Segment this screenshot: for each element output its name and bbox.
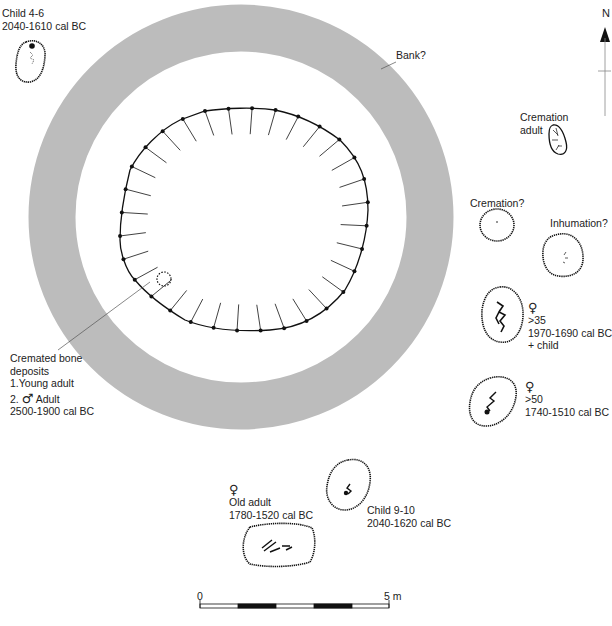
grave-female-35 <box>482 287 523 342</box>
label-female-35: ♀ >35 1970-1690 cal BC + child <box>528 302 612 352</box>
label-cremation-adult: Cremation adult <box>520 111 568 136</box>
north-arrow-label: N <box>602 7 610 20</box>
scale-bar <box>200 600 389 608</box>
label-old-adult: ♀ Old adult 1780-1520 cal BC <box>229 484 313 521</box>
grave-old-adult <box>243 523 315 566</box>
label-child-9-10: Child 9-10 2040-1620 cal BC <box>367 504 451 529</box>
grave-child-9-10 <box>327 460 371 510</box>
grave-female-50 <box>470 377 517 426</box>
scale-start-label: 0 <box>197 590 203 603</box>
female-symbol: ♀ <box>229 484 313 496</box>
female-symbol: ♀ <box>525 381 609 393</box>
scale-end-label: 5 m <box>384 590 402 603</box>
label-female-50: ♀ >50 1740-1510 cal BC <box>525 381 609 418</box>
label-inhumation-query: Inhumation? <box>550 217 608 230</box>
grave-child-4-6 <box>16 41 45 82</box>
grave-cremation-query <box>480 209 514 241</box>
bank-label: Bank? <box>396 49 426 62</box>
grave-inhumation-query <box>543 234 583 277</box>
cremated-bone-label: Cremated bone deposits 1.Young adult 2. … <box>10 352 94 418</box>
label-child-4-6: Child 4-6 2040-1610 cal BC <box>2 7 86 32</box>
cremation-deposit-marker <box>157 272 171 286</box>
ring-ditch <box>120 108 368 331</box>
male-symbol: ♂ <box>22 391 34 406</box>
bank-ring <box>52 28 430 406</box>
female-symbol: ♀ <box>528 302 612 314</box>
ditch-edge-markers <box>118 106 370 332</box>
label-cremation-query: Cremation? <box>470 197 524 210</box>
north-arrow <box>598 27 611 116</box>
